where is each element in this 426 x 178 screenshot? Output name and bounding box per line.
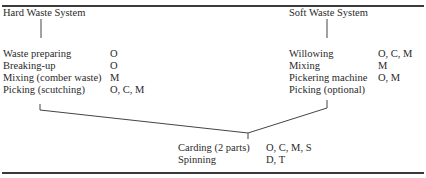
soft-step-codes: M <box>378 60 387 72</box>
soft-waste-title: Soft Waste System <box>289 7 368 19</box>
hard-step-label: Mixing (comber waste) <box>3 72 102 84</box>
hard-step-label: Waste preparing <box>3 48 71 60</box>
hard-waste-title: Hard Waste System <box>3 7 85 19</box>
soft-step-codes: O, C, M <box>378 48 412 60</box>
common-step-codes: D, T <box>266 154 285 166</box>
hard-step-codes: M <box>110 72 119 84</box>
hard-step-label: Breaking-up <box>3 60 56 72</box>
hard-step-codes: O <box>110 60 118 72</box>
bottom-rule <box>2 172 424 174</box>
common-step-label: Carding (2 parts) <box>178 142 250 154</box>
common-step-label: Spinning <box>178 154 216 166</box>
hard-step-codes: O <box>110 48 118 60</box>
soft-step-label: Picking (optional) <box>289 84 365 96</box>
soft-step-label: Willowing <box>289 48 334 60</box>
soft-step-label: Pickering machine <box>289 72 367 84</box>
soft-step-label: Mixing <box>289 60 320 72</box>
common-step-codes: O, C, M, S <box>266 142 312 154</box>
hard-step-label: Picking (scutching) <box>3 84 85 96</box>
soft-step-codes: O, M <box>378 72 400 84</box>
hard-step-codes: O, C, M <box>110 84 144 96</box>
